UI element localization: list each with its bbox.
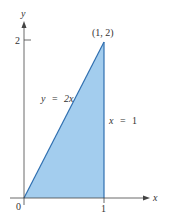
vline-label-rhs: 1 [132, 115, 137, 126]
diagram-canvas: y x 2 0 1 (1, 2) y = 2x x = 1 [0, 0, 170, 224]
x-axis-arrow-icon [143, 196, 150, 201]
y-tick-label: 2 [15, 35, 20, 46]
origin-label: 0 [16, 201, 21, 212]
y-axis-label: y [20, 8, 26, 19]
line-label-x-1: x = 1 [108, 115, 137, 126]
line-label-lhs: y [40, 93, 46, 104]
vline-label-eq: = [120, 115, 126, 126]
line-label-y-2x: y = 2x [40, 93, 74, 104]
x-axis-label: x [152, 192, 158, 203]
point-label: (1, 2) [92, 27, 114, 39]
line-label-rhs: 2x [64, 93, 74, 104]
x-tick-label: 1 [101, 203, 106, 214]
y-axis-arrow-icon [22, 21, 27, 28]
vline-label-lhs: x [108, 115, 114, 126]
line-label-eq: = [52, 93, 58, 104]
